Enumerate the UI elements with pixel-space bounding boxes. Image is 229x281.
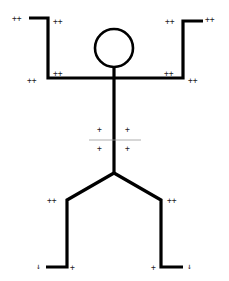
label-right-foot-outer-arrow: ↓ [187,263,192,271]
label-torso-upper-right: + [125,126,130,134]
label-left-knee: ++ [47,197,57,205]
label-right-knee: ++ [167,197,177,205]
label-left-shoulder-inner: ++ [53,70,63,78]
label-right-hand-outer: ++ [205,16,215,24]
label-torso-upper-left: + [97,126,102,134]
label-left-shoulder-outer: ++ [27,77,37,85]
head [95,29,133,67]
label-torso-lower-left: + [97,145,102,153]
right-leg [114,173,183,267]
label-left-foot-outer-arrow: ↓ [36,263,41,271]
label-left-hand-inner: ++ [53,18,63,26]
label-right-hand-inner: ++ [165,18,175,26]
label-torso-lower-right: + [125,145,130,153]
label-left-foot-inner: + [70,264,75,272]
label-right-shoulder-inner: ++ [164,70,174,78]
label-right-shoulder-outer: ++ [188,77,198,85]
label-right-foot-inner: + [151,264,156,272]
stick-figure-diagram [0,0,229,281]
left-arm [29,18,114,78]
label-left-hand-outer: ++ [12,15,22,23]
right-arm [114,21,203,78]
left-leg [46,173,114,267]
